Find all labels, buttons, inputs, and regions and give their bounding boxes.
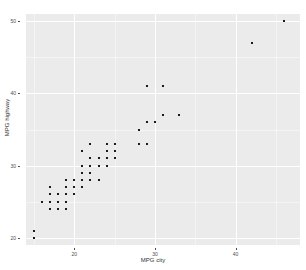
y-axis-tick-label: 50 (10, 19, 16, 24)
data-point (57, 201, 59, 203)
data-point (114, 150, 116, 152)
data-point (138, 129, 140, 131)
data-point (49, 193, 51, 195)
gridline-major-horizontal (26, 166, 300, 167)
data-point (81, 186, 83, 188)
gridline-major-vertical (74, 14, 75, 245)
data-point (146, 121, 148, 123)
y-axis-tick-mark (18, 166, 20, 167)
data-point (146, 85, 148, 87)
y-axis-tick-label: 20 (10, 235, 16, 240)
gridline-minor-horizontal (26, 57, 300, 58)
data-point (106, 143, 108, 145)
data-point (178, 114, 180, 116)
data-point (162, 114, 164, 116)
gridline-minor-vertical (195, 14, 196, 245)
data-point (81, 172, 83, 174)
data-point (154, 121, 156, 123)
data-point (89, 179, 91, 181)
data-point (106, 157, 108, 159)
data-point (73, 179, 75, 181)
x-axis-tick-mark (236, 248, 237, 250)
data-point (114, 157, 116, 159)
data-point (89, 157, 91, 159)
data-point (106, 165, 108, 167)
gridline-major-vertical (236, 14, 237, 245)
data-point (162, 85, 164, 87)
data-point (41, 201, 43, 203)
data-point (49, 208, 51, 210)
data-point (98, 165, 100, 167)
gridline-major-vertical (155, 14, 156, 245)
data-point (283, 20, 285, 22)
x-axis-title: MPG city (0, 257, 306, 264)
gridline-major-horizontal (26, 21, 300, 22)
data-point (73, 186, 75, 188)
data-point (81, 179, 83, 181)
x-axis-tick-labels: 203040 (0, 248, 306, 256)
plot-panel (26, 14, 300, 245)
x-axis-tick-mark (74, 248, 75, 250)
data-point (89, 172, 91, 174)
data-point (65, 193, 67, 195)
x-axis-tick-mark (155, 248, 156, 250)
data-point (81, 165, 83, 167)
y-axis-tick-mark (18, 238, 20, 239)
data-point (65, 201, 67, 203)
data-point (49, 186, 51, 188)
scatter-plot-figure: 20304050 203040 MPG city MPG highway (0, 0, 306, 270)
data-point (114, 143, 116, 145)
data-point (57, 193, 59, 195)
y-axis-tick-mark (18, 21, 20, 22)
data-point (73, 193, 75, 195)
data-point (33, 230, 35, 232)
data-point (65, 179, 67, 181)
data-point (33, 237, 35, 239)
data-point (98, 179, 100, 181)
data-point (89, 165, 91, 167)
data-point (89, 143, 91, 145)
data-point (251, 42, 253, 44)
y-axis-tick-mark (18, 93, 20, 94)
gridline-minor-vertical (276, 14, 277, 245)
data-point (57, 208, 59, 210)
data-point (65, 208, 67, 210)
data-point (138, 143, 140, 145)
data-point (98, 157, 100, 159)
gridline-minor-vertical (115, 14, 116, 245)
y-axis-title: MPG highway (4, 83, 11, 153)
y-axis-tick-label: 40 (10, 91, 16, 96)
data-point (81, 150, 83, 152)
data-point (106, 150, 108, 152)
data-point (65, 186, 67, 188)
y-axis-tick-label: 30 (10, 163, 16, 168)
gridline-minor-vertical (34, 14, 35, 245)
gridline-minor-horizontal (26, 130, 300, 131)
data-point (49, 201, 51, 203)
gridline-major-horizontal (26, 93, 300, 94)
gridline-major-horizontal (26, 238, 300, 239)
data-point (146, 143, 148, 145)
